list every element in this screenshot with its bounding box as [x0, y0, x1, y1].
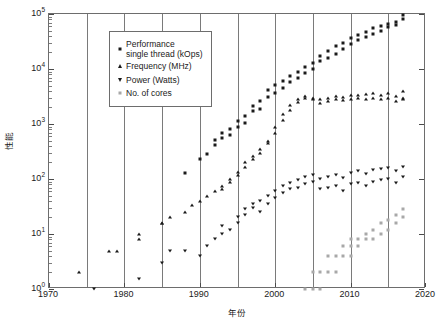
y-minor-tick: [49, 36, 52, 37]
gridline-2005: [313, 14, 314, 287]
y-minor-tick: [49, 74, 52, 75]
y-minor-tick: [49, 136, 52, 137]
y-tick-100: [419, 179, 424, 180]
y-minor-tick: [49, 107, 52, 108]
y-minor-tick: [49, 17, 52, 18]
y-minor-tick: [49, 86, 52, 87]
y-tick-label-10: 101: [31, 229, 45, 238]
y-tick-100000: [49, 14, 54, 15]
y-minor-tick: [49, 201, 52, 202]
y-minor-tick: [49, 182, 52, 183]
y-minor-tick: [49, 52, 52, 53]
y-tick-label-100000: 105: [31, 9, 45, 18]
x-tick-label-2010: 2010: [340, 290, 360, 299]
legend-marker-icon: [114, 43, 126, 55]
legend-label: Performance single thread (kOps): [126, 39, 203, 59]
y-minor-tick: [49, 217, 52, 218]
y-minor-tick: [49, 133, 52, 134]
legend-item-0: Performance single thread (kOps): [114, 39, 203, 59]
gridline-2000: [275, 14, 276, 287]
y-tick-label-100: 102: [31, 174, 45, 183]
y-tick-label-10000: 104: [31, 64, 45, 73]
y-minor-tick: [49, 91, 52, 92]
y-axis-title: 性能: [2, 132, 14, 150]
x-tick-2020: [425, 283, 426, 287]
y-minor-tick: [49, 239, 52, 240]
y-minor-tick: [49, 26, 52, 27]
y-minor-tick: [49, 196, 52, 197]
y-tick-100: [49, 179, 54, 180]
y-minor-tick: [49, 43, 52, 44]
y-minor-tick: [49, 81, 52, 82]
gridline-2015: [388, 14, 389, 287]
x-tick-label-1980: 1980: [113, 290, 133, 299]
gridline-1995: [238, 14, 239, 287]
x-tick-2010: [351, 283, 352, 287]
y-minor-tick: [49, 243, 52, 244]
x-tick-1980: [124, 283, 125, 287]
y-tick-label-1000: 103: [31, 119, 45, 128]
y-tick-10: [419, 234, 424, 235]
y-minor-tick: [49, 237, 52, 238]
legend-label: No. of cores: [126, 88, 172, 98]
y-minor-tick: [49, 78, 52, 79]
y-minor-tick: [49, 98, 52, 99]
y-minor-tick: [49, 141, 52, 142]
legend-item-2: Power (Watts): [114, 74, 203, 86]
x-tick-1970: [49, 283, 50, 287]
y-tick-1000: [49, 124, 54, 125]
y-minor-tick: [49, 256, 52, 257]
x-tick-label-1990: 1990: [189, 290, 209, 299]
y-minor-tick: [49, 72, 52, 73]
y-minor-tick: [49, 129, 52, 130]
y-tick-10000: [49, 69, 54, 70]
y-minor-tick: [49, 251, 52, 252]
x-tick-label-2020: 2020: [415, 290, 435, 299]
legend-item-1: Frequency (MHz): [114, 60, 203, 72]
chart-legend: Performance single thread (kOps)Frequenc…: [109, 31, 212, 107]
x-axis-title: 年份: [48, 306, 425, 318]
y-minor-tick: [49, 184, 52, 185]
y-minor-tick: [49, 146, 52, 147]
y-minor-tick: [49, 127, 52, 128]
y-tick-10000: [419, 69, 424, 70]
legend-marker-icon: [114, 60, 126, 72]
y-minor-tick: [49, 31, 52, 32]
chart-figure: 性能 100101102103104105 Performance single…: [0, 0, 444, 326]
y-minor-tick: [49, 272, 52, 273]
legend-label: Power (Watts): [126, 75, 180, 85]
y-minor-tick: [49, 188, 52, 189]
legend-item-3: No. of cores: [114, 87, 203, 99]
y-axis-tick-labels: 100101102103104105: [22, 13, 45, 288]
x-tick-2000: [275, 283, 276, 287]
legend-marker-icon: [114, 87, 126, 99]
legend-marker-icon: [114, 74, 126, 86]
gridline-1975: [87, 14, 88, 287]
y-tick-10: [49, 234, 54, 235]
x-tick-1990: [200, 283, 201, 287]
plot-area: Performance single thread (kOps)Frequenc…: [48, 13, 425, 288]
x-tick-label-1970: 1970: [38, 290, 58, 299]
legend-label: Frequency (MHz): [126, 61, 192, 71]
y-tick-1000: [419, 124, 424, 125]
x-tick-label-2000: 2000: [264, 290, 284, 299]
y-minor-tick: [49, 153, 52, 154]
x-axis-tick-labels: 197019801990200020102020: [48, 290, 425, 304]
y-minor-tick: [49, 162, 52, 163]
y-tick-100000: [419, 14, 424, 15]
y-minor-tick: [49, 191, 52, 192]
y-minor-tick: [49, 208, 52, 209]
y-minor-tick: [49, 246, 52, 247]
y-minor-tick: [49, 23, 52, 24]
y-minor-tick: [49, 263, 52, 264]
y-minor-tick: [49, 19, 52, 20]
